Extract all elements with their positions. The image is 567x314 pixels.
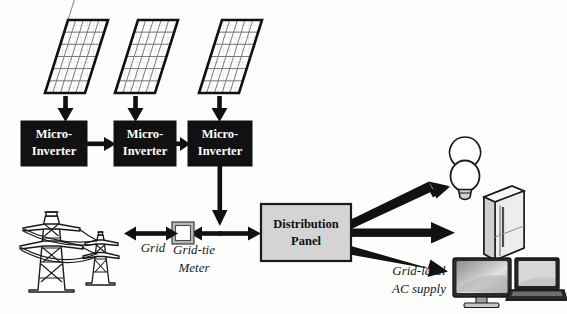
label-grid-tie-meter-line1: Grid-tie: [173, 242, 215, 257]
diagram-canvas: Micro- Inverter Micro- Inverter Micro- I…: [0, 0, 567, 314]
distribution-panel-line2: Panel: [291, 234, 321, 248]
laptop-icon: [506, 258, 567, 300]
inverter-2-line2: Inverter: [123, 144, 168, 158]
label-grid: Grid: [141, 240, 166, 255]
distribution-panel[interactable]: Distribution Panel: [261, 204, 351, 261]
label-grid-level-line1: Grid-level: [392, 263, 446, 278]
inverter-2-line1: Micro-: [127, 127, 164, 141]
inverter-3-line1: Micro-: [202, 127, 239, 141]
distribution-panel-line1: Distribution: [273, 217, 338, 231]
inverter-3-line2: Inverter: [198, 144, 243, 158]
inverter-1-line1: Micro-: [36, 127, 73, 141]
inverter-3[interactable]: Micro- Inverter: [188, 121, 252, 166]
inverter-2[interactable]: Micro- Inverter: [114, 121, 176, 166]
refrigerator-icon: [484, 186, 524, 260]
label-grid-level-line2: AC supply: [391, 281, 446, 296]
label-grid-tie-meter-line2: Meter: [177, 260, 210, 275]
inverter-1[interactable]: Micro- Inverter: [21, 121, 87, 166]
inverter-1-line2: Inverter: [32, 144, 77, 158]
